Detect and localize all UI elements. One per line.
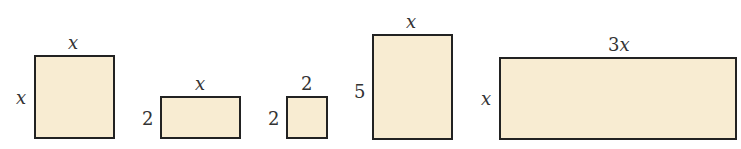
top-label-shape-5: 3x <box>608 36 630 54</box>
variable-x: x <box>619 34 629 55</box>
top-label-shape-2: x <box>195 75 205 93</box>
square-x-by-x <box>34 55 115 139</box>
top-label-shape-4: x <box>406 13 416 31</box>
top-label-shape-3: 2 <box>301 75 312 93</box>
top-label-shape-1: x <box>68 34 78 52</box>
side-label-shape-3: 2 <box>268 110 279 128</box>
rect-x-by-5 <box>372 34 453 140</box>
side-label-shape-2: 2 <box>142 110 153 128</box>
side-label-shape-1: x <box>16 89 26 107</box>
rect-x-by-2 <box>160 96 241 139</box>
side-label-shape-5: x <box>481 90 491 108</box>
top-label-text: 3x <box>608 34 630 55</box>
side-label-shape-4: 5 <box>354 83 365 101</box>
square-2-by-2 <box>286 96 328 139</box>
rect-3x-by-x <box>499 57 737 140</box>
